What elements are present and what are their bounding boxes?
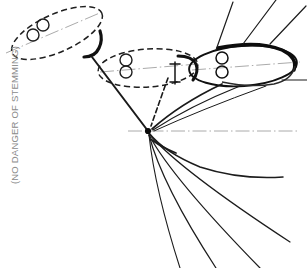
lower-ray-3 (149, 135, 260, 268)
trajectory-left-to-vertex (92, 57, 148, 131)
right-oval-circle-upper (216, 52, 228, 64)
vertex-point-group (145, 128, 151, 134)
centerline-middle-oval (100, 64, 198, 72)
middle-oval-circle-lower (120, 66, 132, 78)
gap-arrow-marker (170, 62, 180, 84)
figure-root: (NO DANGER OF STEMMING) (0, 0, 307, 268)
lower-ray-4 (149, 135, 216, 268)
trajectory-right-to-vertex-2 (153, 86, 240, 130)
upper-ray-1 (216, 2, 233, 50)
lower-ray-fan (149, 133, 290, 268)
left-oval-circle-lower (27, 29, 39, 41)
trajectory-right-to-vertex-3 (154, 86, 266, 131)
middle-oval-circle-upper (120, 54, 132, 66)
vertex-point (145, 128, 151, 134)
centerline-right-oval (192, 62, 300, 70)
left-oval-circle-upper (37, 19, 49, 31)
technical-diagram-svg (0, 0, 307, 268)
left-oval-tip-thick (84, 31, 101, 57)
figure-caption-vertical: (NO DANGER OF STEMMING) (8, 30, 22, 200)
upper-ray-3 (270, 6, 306, 44)
lower-ray-1-curved (149, 133, 283, 178)
trajectory-group (92, 57, 266, 131)
upper-ray-2 (243, 0, 276, 44)
centerline-group (6, 12, 300, 131)
